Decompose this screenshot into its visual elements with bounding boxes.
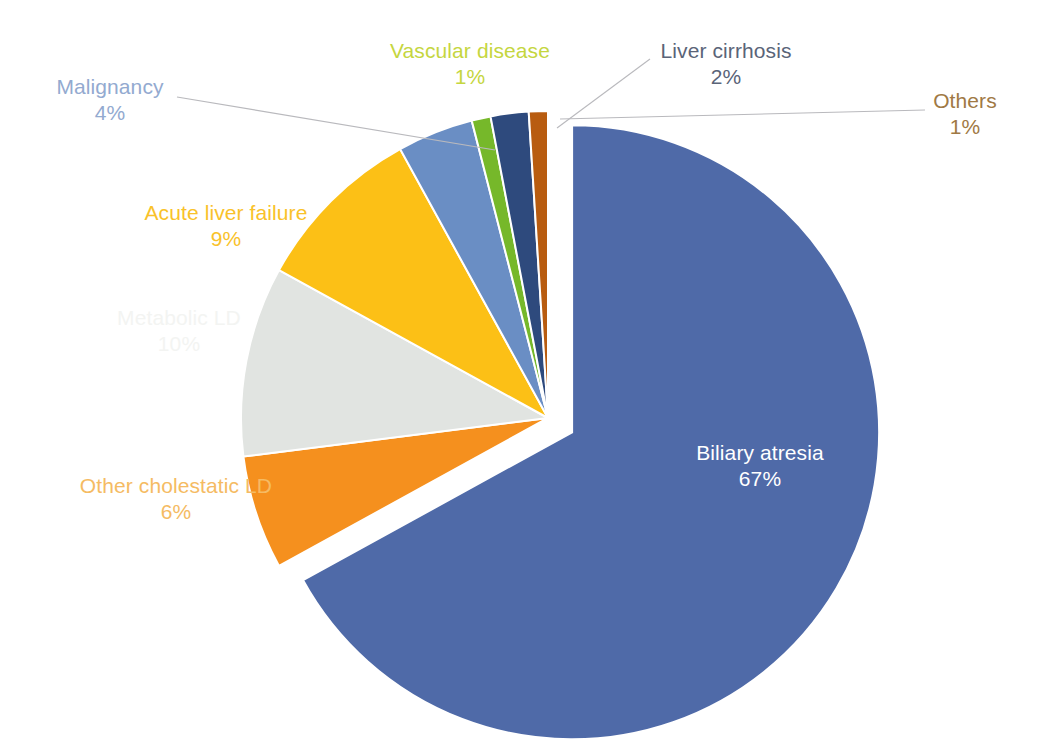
slice-label-liver-cirrhosis: Liver cirrhosis 2% [632,38,820,89]
slice-label-name: Malignancy [20,74,200,100]
slice-label-name: Others [906,88,1024,114]
slice-label-acute-liver-failure: Acute liver failure 9% [98,200,354,251]
slice-label-metabolic-ld: Metabolic LD 10% [80,305,278,356]
slice-label-percent: 2% [632,64,820,90]
slice-label-name: Biliary atresia [660,440,860,466]
pie-chart: Malignancy 4% Vascular disease 1% Liver … [0,0,1044,750]
slice-label-percent: 67% [660,466,860,492]
slice-label-percent: 9% [98,226,354,252]
slice-label-name: Acute liver failure [98,200,354,226]
leader-line-malignancy [177,97,495,150]
slice-label-others: Others 1% [906,88,1024,139]
slice-label-percent: 10% [80,331,278,357]
slice-label-other-cholestatic-ld: Other cholestatic LD 6% [38,473,314,524]
slice-label-percent: 1% [906,114,1024,140]
slice-label-name: Metabolic LD [80,305,278,331]
slice-label-vascular-disease: Vascular disease 1% [368,38,572,89]
slice-label-biliary-atresia: Biliary atresia 67% [660,440,860,491]
slice-label-name: Other cholestatic LD [38,473,314,499]
slice-label-name: Liver cirrhosis [632,38,820,64]
slice-label-malignancy: Malignancy 4% [20,74,200,125]
slice-label-percent: 4% [20,100,200,126]
slice-label-percent: 6% [38,499,314,525]
slice-label-percent: 1% [368,64,572,90]
slice-label-name: Vascular disease [368,38,572,64]
leader-line-others [560,110,925,119]
